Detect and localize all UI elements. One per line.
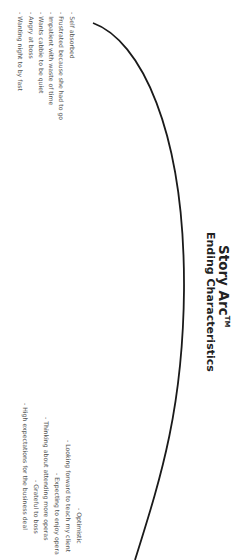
beginning-trait: - Wanting night to by fast [17, 12, 24, 91]
ending-trait: - Looking forward to teach my client [65, 440, 72, 552]
story-arc-curve [0, 0, 238, 560]
beginning-trait: - Wants cabbie to be quiet [38, 12, 45, 93]
trademark-mark: TM [223, 316, 231, 328]
beginning-trait: - Impatient with waste of time [48, 12, 55, 105]
beginning-trait: - Frustrated because she had to go [58, 12, 65, 120]
page-title: Story ArcTM [216, 245, 232, 327]
ending-trait: - Grateful to boss [33, 480, 40, 534]
ending-trait: - Thinking about attending more operas [43, 417, 50, 540]
title-text: Story Arc [216, 245, 232, 316]
ending-trait: - Expecting to enjoy opera [54, 473, 61, 555]
beginning-trait: - Angry at boss [28, 12, 35, 59]
ending-trait: - Optimistic [76, 508, 83, 544]
beginning-trait: - Self absorbed [69, 12, 76, 59]
ending-trait: - High expectations for the business dea… [22, 403, 29, 530]
page-subtitle: Ending Characteristics [204, 232, 217, 372]
